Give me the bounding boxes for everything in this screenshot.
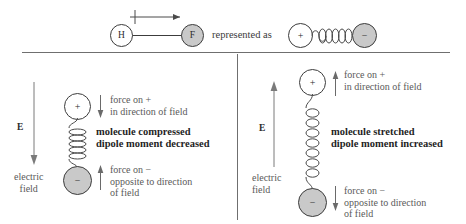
charge-positive-label: + xyxy=(75,102,81,112)
caption-stretched-line2: dipole moment increased xyxy=(331,138,443,150)
atom-h-label: H xyxy=(118,31,125,41)
force-positive-line2: in direction of field xyxy=(344,81,421,93)
force-positive-line1: force on + xyxy=(110,94,187,106)
caption-compressed-line2: dipole moment decreased xyxy=(96,138,210,150)
force-positive-line1: force on + xyxy=(344,69,421,81)
electric-field-symbol: E xyxy=(17,122,23,132)
electric-field-label-line2: field xyxy=(14,183,43,195)
force-positive-arrow-up xyxy=(331,70,340,96)
dipole-moment-arrow xyxy=(128,8,190,24)
panel-compressed: E electric field + xyxy=(0,54,237,224)
force-negative-arrow-up xyxy=(96,164,105,190)
electric-field-symbol: E xyxy=(259,123,265,133)
charge-negative-label: − xyxy=(75,176,81,186)
force-negative-line1: force on − xyxy=(344,185,426,197)
charge-positive: + xyxy=(299,69,326,96)
represented-as-label: represented as xyxy=(212,29,272,40)
top-section: H F represented as + xyxy=(0,0,466,52)
atom-f-label: F xyxy=(190,31,195,41)
charge-negative: − xyxy=(298,188,327,217)
model-spring-icon xyxy=(311,25,355,47)
force-negative-line3: of field xyxy=(110,187,192,199)
caption-stretched: molecule stretched dipole moment increas… xyxy=(331,126,443,150)
force-positive-line2: in direction of field xyxy=(110,106,187,118)
force-positive-arrow-down xyxy=(96,95,105,119)
electric-field-label: electric field xyxy=(14,171,43,194)
hf-bond-line xyxy=(131,35,183,36)
electric-field-label-line2: field xyxy=(252,184,281,196)
model-positive-label: + xyxy=(298,31,304,41)
dipole-field-diagram: H F represented as + xyxy=(0,0,466,224)
force-negative-line1: force on − xyxy=(110,164,192,176)
spring-compressed-icon xyxy=(62,118,93,168)
force-positive-text: force on + in direction of field xyxy=(344,69,421,92)
spring-stretched-icon xyxy=(301,94,325,190)
model-negative-label: − xyxy=(362,31,368,41)
caption-stretched-line1: molecule stretched xyxy=(331,126,443,138)
force-negative-line2: opposite to direction xyxy=(344,197,426,209)
horizontal-divider xyxy=(22,52,450,53)
model-positive-charge: + xyxy=(288,23,313,48)
force-negative-line3: of field xyxy=(344,208,426,220)
force-negative-line2: opposite to direction xyxy=(110,176,192,188)
caption-compressed: molecule compressed dipole moment decrea… xyxy=(96,126,210,150)
force-negative-text: force on − opposite to direction of fiel… xyxy=(110,164,192,199)
model-negative-charge: − xyxy=(352,23,377,48)
panel-stretched: E electric field + xyxy=(238,54,466,224)
charge-negative: − xyxy=(63,166,92,195)
charge-negative-label: − xyxy=(310,198,316,208)
force-positive-text: force on + in direction of field xyxy=(110,94,187,117)
atom-h: H xyxy=(110,24,133,47)
force-negative-arrow-down xyxy=(331,186,340,212)
caption-compressed-line1: molecule compressed xyxy=(96,126,210,138)
electric-field-label: electric field xyxy=(252,172,281,195)
electric-field-label-line1: electric xyxy=(252,172,281,184)
electric-field-label-line1: electric xyxy=(14,171,43,183)
charge-positive: + xyxy=(64,93,91,120)
electric-field-arrow-up xyxy=(268,81,280,167)
atom-f: F xyxy=(181,24,204,47)
charge-positive-label: + xyxy=(310,78,316,88)
electric-field-arrow-down xyxy=(28,82,40,166)
force-negative-text: force on − opposite to direction of fiel… xyxy=(344,185,426,220)
